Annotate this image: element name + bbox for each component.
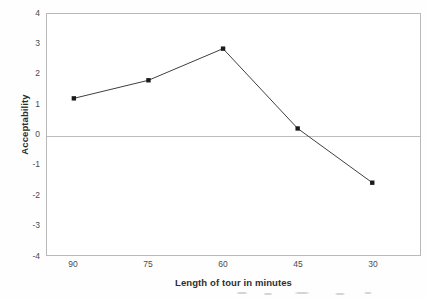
line-chart-figure: Acceptability 43210-1-2-3-4 9075604530 L… xyxy=(0,0,427,299)
y-tick-label: -3 xyxy=(24,221,40,230)
series-line xyxy=(74,49,372,183)
y-tick-label: 4 xyxy=(24,9,40,18)
data-point-marker xyxy=(72,96,76,100)
x-axis-title: Length of tour in minutes xyxy=(46,277,421,288)
y-tick-label: -4 xyxy=(24,252,40,261)
data-point-marker xyxy=(295,126,299,130)
y-tick-label: 0 xyxy=(24,130,40,139)
plot-area xyxy=(46,13,421,256)
y-tick-label: -1 xyxy=(24,160,40,169)
y-tick-label: 3 xyxy=(24,39,40,48)
x-tick-label: 30 xyxy=(353,259,393,269)
scan-artifact xyxy=(232,291,382,296)
x-tick-label: 90 xyxy=(53,259,93,269)
data-series-acceptability xyxy=(47,14,420,255)
data-point-marker xyxy=(221,46,225,50)
data-point-marker xyxy=(146,78,150,82)
x-tick-label: 45 xyxy=(278,259,318,269)
x-tick-label: 75 xyxy=(128,259,168,269)
y-tick-label: -2 xyxy=(24,191,40,200)
y-tick-label: 1 xyxy=(24,100,40,109)
y-tick-label: 2 xyxy=(24,69,40,78)
x-axis-tick-labels: 9075604530 xyxy=(46,259,421,273)
y-axis-tick-labels: 43210-1-2-3-4 xyxy=(22,0,40,299)
data-point-marker xyxy=(370,181,374,185)
x-tick-label: 60 xyxy=(203,259,243,269)
series-markers xyxy=(72,46,375,184)
